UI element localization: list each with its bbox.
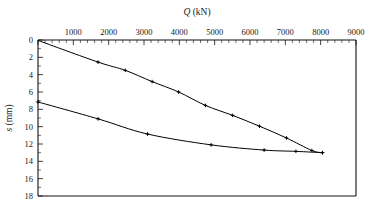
data-point-marker (96, 117, 100, 121)
y-axis-title: s (mm) (4, 104, 15, 131)
y-axis-tick-labels: 024681012141618 (25, 35, 34, 201)
x-tick-label: 4000 (171, 27, 188, 37)
y-tick-label: 12 (25, 139, 34, 149)
data-point-marker (96, 60, 100, 64)
y-tick-label: 18 (25, 191, 34, 201)
x-tick-label: 5000 (206, 27, 223, 37)
data-point-marker (150, 80, 154, 84)
y-tick-label: 10 (25, 122, 34, 132)
x-tick-label: 6000 (242, 27, 259, 37)
x-axis-title: Q (kN) (183, 7, 210, 18)
data-series-0 (38, 40, 324, 154)
data-point-marker (209, 143, 213, 147)
x-tick-label: 2000 (100, 27, 117, 37)
x-axis-ticks (38, 40, 356, 45)
y-tick-label: 6 (29, 87, 33, 97)
data-point-marker (321, 151, 325, 155)
data-point-marker (123, 69, 127, 73)
y-tick-label: 8 (29, 104, 33, 114)
y-tick-label: 0 (29, 35, 33, 45)
load-settlement-chart: 100020003000400050006000700080009000 024… (0, 0, 376, 214)
data-point-marker (177, 90, 181, 94)
x-tick-label: 7000 (277, 27, 294, 37)
data-point-marker (231, 114, 235, 118)
plot-frame (38, 40, 356, 196)
x-axis-tick-labels: 100020003000400050006000700080009000 (65, 27, 365, 37)
x-tick-label: 8000 (312, 27, 329, 37)
data-series-1 (36, 100, 324, 154)
data-point-marker (204, 104, 208, 108)
x-tick-label: 1000 (65, 27, 82, 37)
series-line-0 (38, 40, 322, 152)
data-point-marker (146, 132, 150, 136)
y-tick-label: 16 (25, 174, 34, 184)
y-tick-label: 4 (29, 70, 34, 80)
y-tick-label: 2 (29, 52, 33, 62)
x-tick-label: 3000 (136, 27, 153, 37)
data-point-marker (294, 150, 298, 154)
data-point-marker (258, 124, 262, 128)
y-tick-label: 14 (25, 156, 34, 166)
series-line-1 (38, 102, 322, 153)
data-point-marker (262, 148, 266, 152)
data-point-marker (285, 136, 289, 140)
data-series-group (36, 40, 324, 154)
chart-figure: 100020003000400050006000700080009000 024… (0, 0, 376, 214)
y-axis-ticks (38, 40, 43, 196)
x-tick-label: 9000 (348, 27, 365, 37)
